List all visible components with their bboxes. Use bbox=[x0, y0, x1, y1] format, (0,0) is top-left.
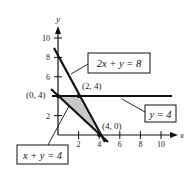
x-tick-label: 2 bbox=[77, 140, 81, 149]
x-axis-label: x bbox=[179, 130, 184, 140]
x-tick-label: 4 bbox=[97, 140, 101, 149]
y-axis-label: y bbox=[55, 14, 60, 24]
equation-label-2x-plus-y: 2x + y = 8 bbox=[97, 58, 142, 69]
x-axis-arrow-icon bbox=[170, 132, 178, 138]
equation-label-y-eq-4: y = 4 bbox=[148, 109, 172, 120]
callout-leader-2x-plus-y bbox=[71, 64, 88, 74]
x-tick-label: 10 bbox=[157, 140, 165, 149]
x-tick-label: 6 bbox=[118, 140, 122, 149]
y-tick-label: 6 bbox=[46, 73, 50, 82]
point-4-0 bbox=[97, 133, 101, 137]
callout-leader-y-eq-4 bbox=[122, 99, 145, 112]
point-label-2-4: (2, 4) bbox=[82, 81, 102, 91]
y-axis-arrow-icon bbox=[55, 26, 61, 34]
feasible-region-graph: 2 4 6 8 10 2 6 8 10 x y (0, 4) (2, 4) (4… bbox=[0, 0, 192, 172]
point-label-0-4: (0, 4) bbox=[26, 90, 46, 100]
y-tick-label: 10 bbox=[42, 34, 50, 43]
point-2-4 bbox=[77, 94, 81, 98]
point-label-4-0: (4, 0) bbox=[102, 121, 122, 131]
y-tick-label: 8 bbox=[46, 53, 50, 62]
y-tick-label: 2 bbox=[46, 112, 50, 121]
point-0-4 bbox=[56, 94, 60, 98]
equation-label-x-plus-y: x + y = 4 bbox=[22, 150, 63, 161]
x-tick-label: 8 bbox=[138, 140, 142, 149]
